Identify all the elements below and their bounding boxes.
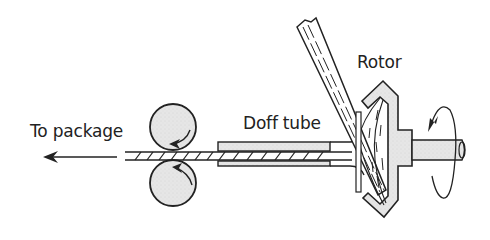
to-package-label: To package: [30, 121, 123, 141]
doff-tube: [218, 136, 364, 175]
rotor-label: Rotor: [357, 52, 402, 72]
direction-arrow-icon: [43, 151, 117, 163]
doff-tube-label: Doff tube: [243, 113, 321, 133]
rotor-shaft: [412, 140, 465, 160]
yarn: [125, 152, 352, 160]
take-up-rollers: [150, 104, 196, 206]
